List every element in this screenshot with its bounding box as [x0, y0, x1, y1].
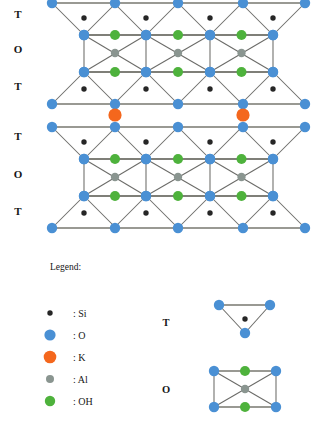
atom-oh	[110, 67, 120, 77]
atom-si	[207, 210, 212, 215]
bond-network	[52, 3, 305, 407]
atom-al	[237, 49, 245, 57]
tetra-edge	[210, 72, 242, 104]
atom-si	[81, 86, 86, 91]
legend-octa-o	[271, 402, 281, 412]
legend-swatch-k	[44, 351, 57, 364]
atom-o	[300, 223, 310, 233]
atom-oh	[237, 30, 247, 40]
tetra-edge	[84, 72, 116, 104]
layer-label-t-2: T	[14, 80, 22, 92]
layer-label-t-0: T	[14, 8, 22, 20]
atom-al	[174, 173, 182, 181]
tetra-edge	[52, 3, 84, 35]
atom-o	[238, 99, 248, 109]
atom-o	[141, 30, 151, 40]
atom-oh	[237, 67, 247, 77]
legend-swatch-al	[46, 375, 54, 383]
tetra-edge	[146, 127, 178, 159]
atom-oh	[173, 30, 183, 40]
atom-oh	[110, 154, 120, 164]
legend-swatch-o	[44, 329, 55, 340]
atom-oh	[173, 191, 183, 201]
tetra-edge	[241, 196, 273, 228]
crystal-structure-figure: TOTTOT Legend:: Si: O: K: Al: OHTO	[0, 0, 320, 431]
atom-o	[79, 30, 89, 40]
atom-si	[143, 210, 148, 215]
atom-o	[141, 154, 151, 164]
legend-label-si: : Si	[73, 308, 87, 319]
legend-tetra-edge	[219, 305, 245, 333]
atom-o	[205, 191, 215, 201]
layer-label-t-3: T	[14, 130, 22, 142]
legend-tetra-o	[240, 328, 250, 338]
atom-o	[47, 223, 57, 233]
tetra-edge	[84, 3, 116, 35]
legend-tetra-edge	[245, 305, 270, 333]
atom-si	[143, 139, 148, 144]
atom-si	[207, 86, 212, 91]
atom-o	[205, 67, 215, 77]
legend-swatch-si	[47, 310, 52, 315]
atom-o	[141, 67, 151, 77]
tetra-edge	[146, 196, 178, 228]
atom-o	[173, 223, 183, 233]
tetra-edge	[52, 72, 84, 104]
atom-o	[173, 122, 183, 132]
legend-label-al: : Al	[73, 374, 88, 385]
tetra-edge	[210, 3, 242, 35]
tetra-edge	[210, 196, 242, 228]
atom-si	[270, 210, 275, 215]
atom-oh	[173, 154, 183, 164]
atom-k-interlayer	[108, 108, 121, 121]
atom-o	[268, 30, 278, 40]
tetra-edge	[178, 196, 210, 228]
atom-o	[79, 191, 89, 201]
atom-o	[268, 154, 278, 164]
tetra-edge	[114, 3, 146, 35]
tetra-edge	[84, 196, 116, 228]
tetra-edge	[178, 127, 210, 159]
tetra-edge	[273, 127, 305, 159]
atom-si	[81, 210, 86, 215]
atom-o	[268, 67, 278, 77]
legend-label-oh: : OH	[73, 396, 93, 407]
atom-al	[174, 49, 182, 57]
tetra-edge	[273, 72, 305, 104]
legend-octa-oh	[240, 366, 250, 376]
tetra-edge	[178, 72, 210, 104]
legend-diagram-label-octahedron: O	[162, 384, 170, 395]
legend-octa-o	[209, 402, 219, 412]
legend-swatch-oh	[45, 396, 55, 406]
atom-o	[47, 99, 57, 109]
atom-si	[207, 15, 212, 20]
atom-o	[110, 122, 120, 132]
legend-group: Legend:: Si: O: K: Al: OHTO	[44, 262, 281, 412]
atom-o	[300, 99, 310, 109]
atom-si	[143, 15, 148, 20]
legend-diagram-label-tetrahedron: T	[162, 317, 169, 328]
layer-label-group: TOTTOT	[14, 8, 23, 217]
atom-o	[238, 0, 248, 8]
atom-o	[205, 154, 215, 164]
layer-label-o-4: O	[14, 168, 23, 180]
atom-o	[238, 223, 248, 233]
tetra-edge	[114, 127, 146, 159]
atom-oh	[237, 154, 247, 164]
atom-network	[47, 0, 310, 233]
figure-root: TOTTOT Legend:: Si: O: K: Al: OHTO	[0, 0, 320, 431]
atom-oh	[110, 191, 120, 201]
tetra-edge	[52, 127, 84, 159]
legend-tetra-o	[214, 300, 224, 310]
atom-si	[270, 139, 275, 144]
layer-label-o-1: O	[14, 43, 23, 55]
atom-o	[110, 223, 120, 233]
legend-octa-o	[209, 366, 219, 376]
atom-si	[143, 86, 148, 91]
legend-label-o: : O	[73, 330, 86, 341]
atom-o	[300, 122, 310, 132]
tetra-edge	[241, 127, 273, 159]
atom-al	[237, 173, 245, 181]
tetra-edge	[146, 3, 178, 35]
tetra-edge	[146, 72, 178, 104]
